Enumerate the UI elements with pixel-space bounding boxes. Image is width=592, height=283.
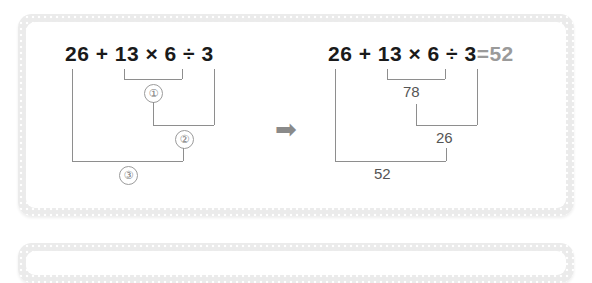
step1-bracket-right-tick [182,69,183,79]
result2-bracket-right-tick [477,69,478,125]
result-value-3: 52 [374,165,391,182]
step-marker-2: ② [175,130,194,149]
step3-bracket-left-tick [72,69,73,161]
result3-bracket-left-tick [335,69,336,161]
left-expression: 26 + 13 × 6 ÷ 3 [65,42,214,66]
result2-bracket-left-tick [416,104,417,125]
right-arrow-icon: ➡ [275,116,297,142]
step2-bracket-span [153,125,214,126]
result1-bracket-left-tick [387,69,388,79]
right-expression: 26 + 13 × 6 ÷ 3=52 [328,42,514,66]
result2-bracket-span [416,125,477,126]
result1-bracket-right-tick [445,69,446,79]
result-value-1: 78 [403,83,420,100]
result-value-2: 26 [436,129,453,146]
step-marker-1: ① [144,84,163,103]
equals-sign: = [477,42,490,65]
step1-bracket-span [124,79,182,80]
final-value: 52 [489,42,513,65]
step2-bracket-left-tick [153,102,154,125]
result1-bracket-span [387,79,445,80]
result3-bracket-span [335,161,446,162]
step3-bracket-span [72,161,183,162]
next-panel-partial [18,243,574,283]
worked-example-panel: 26 + 13 × 6 ÷ 3 ① ② ③ ➡ 26 + 13 × 6 ÷ 3=… [18,14,574,216]
next-panel-inner-surface [26,251,566,275]
result3-bracket-right-tick [446,148,447,161]
panel-content: 26 + 13 × 6 ÷ 3 ① ② ③ ➡ 26 + 13 × 6 ÷ 3=… [26,22,566,208]
right-expression-text: 26 + 13 × 6 ÷ 3 [328,42,477,65]
step1-bracket-left-tick [124,69,125,79]
step3-bracket-right-tick [183,148,184,161]
step-marker-3: ③ [119,166,138,185]
step2-bracket-right-tick [214,69,215,125]
